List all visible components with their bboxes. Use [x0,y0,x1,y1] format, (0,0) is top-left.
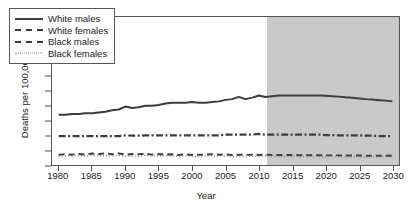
x-tick-mark-5 [226,166,227,171]
x-tick-mark-6 [259,166,260,171]
chart-legend: White malesWhite femalesBlack malesBlack… [9,8,115,64]
legend-item-3: Black females [15,48,108,60]
x-axis-label: Year [0,190,412,201]
x-tick-label-3: 1995 [148,170,169,181]
x-tick-label-10: 2030 [383,170,404,181]
x-tick-label-9: 2025 [349,170,370,181]
x-tick-label-1: 1985 [81,170,102,181]
legend-label-2: Black males [48,36,99,48]
series-line-3 [59,155,393,157]
x-tick-label-2: 1990 [114,170,135,181]
x-tick-label-8: 2020 [316,170,337,181]
x-tick-label-0: 1980 [47,170,68,181]
legend-swatch-icon-2 [15,37,43,47]
legend-swatch-icon-1 [15,25,43,35]
x-tick-label-5: 2005 [215,170,236,181]
x-tick-label-4: 2000 [181,170,202,181]
x-tick-mark-7 [293,166,294,171]
legend-swatch-icon-0 [15,14,43,24]
legend-item-1: White females [15,25,108,37]
x-tick-label-7: 2015 [282,170,303,181]
chart-figure: Deaths per 100,000 012345678910 19801985… [0,0,412,215]
legend-label-0: White males [48,13,100,25]
series-line-0 [59,95,393,114]
legend-label-1: White females [48,25,108,37]
series-line-1 [59,134,393,136]
x-tick-mark-0 [58,166,59,171]
x-tick-label-6: 2010 [248,170,269,181]
x-tick-mark-4 [192,166,193,171]
legend-item-0: White males [15,13,108,25]
x-tick-mark-10 [393,166,394,171]
series-line-2 [59,153,393,156]
legend-swatch-icon-3 [15,48,43,58]
legend-item-2: Black males [15,36,108,48]
x-tick-mark-8 [326,166,327,171]
legend-label-3: Black females [48,48,107,60]
x-tick-mark-9 [360,166,361,171]
x-tick-mark-2 [125,166,126,171]
x-tick-mark-3 [158,166,159,171]
x-tick-mark-1 [91,166,92,171]
